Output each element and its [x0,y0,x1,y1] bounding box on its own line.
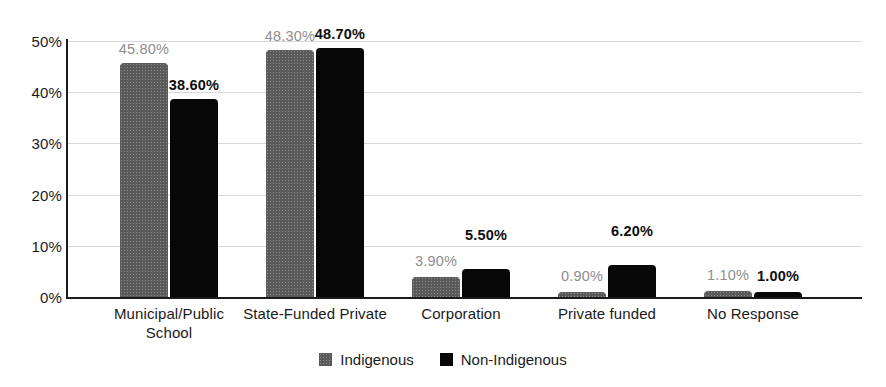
category-label: State-Funded Private [240,304,390,323]
y-tick-label: 10% [6,237,62,254]
legend-item[interactable]: Non-Indigenous [440,351,567,368]
bar-value-label: 48.30% [265,28,315,44]
bar-nonindigenous[interactable] [316,48,364,297]
bar-group: 3.90%5.50% [412,41,510,297]
bar-group: 45.80%38.60% [120,41,218,297]
bar-value-label: 38.60% [169,77,219,93]
y-axis-line [66,39,68,299]
bar-value-label: 1.10% [707,267,749,283]
category-label: Corporation [386,304,536,323]
bar-nonindigenous[interactable] [170,99,218,297]
bar-indigenous[interactable] [266,50,314,297]
category-label: No Response [678,304,828,323]
y-tick-label: 30% [6,135,62,152]
legend-swatch-icon [319,353,332,366]
y-tick-label: 0% [6,289,62,306]
plot-area: 45.80%38.60%48.30%48.70%3.90%5.50%0.90%6… [67,41,862,297]
chart-legend: IndigenousNon-Indigenous [0,351,886,368]
bar-group: 48.30%48.70% [266,41,364,297]
bar-value-label: 0.90% [561,268,603,284]
bar-group: 0.90%6.20% [558,41,656,297]
bar-indigenous[interactable] [120,63,168,297]
bar-value-label: 5.50% [465,227,507,243]
bar-indigenous[interactable] [412,277,460,297]
bar-chart: 45.80%38.60%48.30%48.70%3.90%5.50%0.90%6… [0,0,886,387]
bar-nonindigenous[interactable] [608,265,656,297]
y-tick-label: 20% [6,186,62,203]
legend-swatch-icon [440,353,453,366]
bar-value-label: 6.20% [611,223,653,239]
bar-value-label: 48.70% [315,26,365,42]
legend-label: Non-Indigenous [461,351,567,368]
category-label: Municipal/Public School [94,304,244,342]
bar-group: 1.10%1.00% [704,41,802,297]
bar-value-label: 45.80% [119,41,169,57]
x-axis-line [66,297,862,299]
bar-value-label: 3.90% [415,253,457,269]
category-label: Private funded [532,304,682,323]
legend-item[interactable]: Indigenous [319,351,413,368]
y-tick-label: 50% [6,33,62,50]
legend-label: Indigenous [340,351,413,368]
y-axis-tick-labels: 50%40%30%20%10%0% [0,41,62,297]
bar-nonindigenous[interactable] [462,269,510,297]
y-tick-label: 40% [6,84,62,101]
bar-value-label: 1.00% [757,268,799,284]
